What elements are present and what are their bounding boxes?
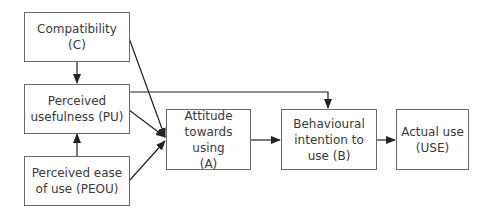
edge-peou-a: [129, 141, 165, 181]
node-label: Attitude: [167, 108, 250, 124]
node-label: usefulness (PU): [30, 109, 123, 125]
node-behavioural-intention: Behaviouralintention touse (B): [281, 109, 377, 170]
node-actual-use: Actual use(USE): [396, 109, 469, 170]
node-label: use (B): [293, 148, 365, 164]
node-compatibility: Compatibility(C): [24, 12, 130, 62]
node-label: Perceived: [30, 93, 123, 109]
tam-diagram: Compatibility(C) Perceivedusefulness (PU…: [0, 0, 488, 217]
node-label: Behavioural: [293, 116, 365, 132]
node-attitude: Attitudetowards using(A): [166, 109, 251, 170]
node-label: Compatibility: [37, 21, 117, 37]
node-label: (A): [167, 156, 250, 172]
edge-c-a: [129, 38, 165, 137]
node-label: (USE): [401, 140, 464, 156]
node-label: Perceived ease: [32, 165, 122, 181]
node-label: towards using: [167, 124, 250, 156]
node-perceived-ease-of-use: Perceived easeof use (PEOU): [24, 156, 130, 206]
edge-pu-b: [129, 92, 328, 108]
node-label: of use (PEOU): [32, 181, 122, 197]
node-perceived-usefulness: Perceivedusefulness (PU): [24, 84, 130, 134]
node-label: intention to: [293, 132, 365, 148]
node-label: Actual use: [401, 124, 464, 140]
node-label: (C): [37, 37, 117, 53]
